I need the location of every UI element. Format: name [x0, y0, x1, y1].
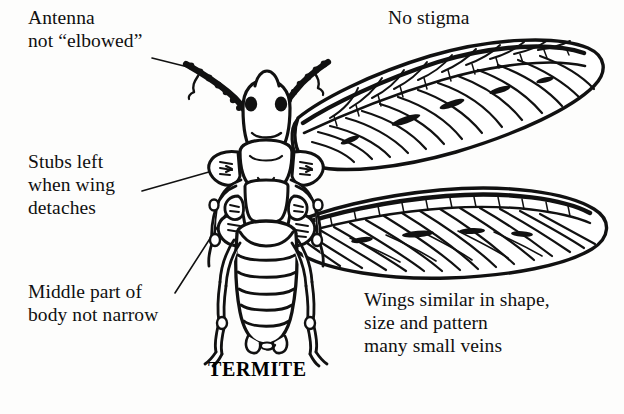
legs — [205, 180, 327, 366]
leg-bases — [225, 196, 307, 220]
label-antenna-not-elbowed: Antenna not “elbowed” — [28, 6, 142, 52]
head — [243, 71, 290, 158]
leader-lines — [142, 58, 230, 293]
hindwing — [287, 188, 607, 278]
eye-right — [275, 96, 287, 111]
antenna-leader-line — [152, 58, 188, 67]
termite-diagram-figure: Antenna not “elbowed” Stubs left when wi… — [0, 0, 624, 414]
figure-caption-termite: TERMITE — [208, 358, 307, 381]
antenna-left — [186, 63, 259, 150]
label-wings-similar-in-shape: Wings similar in shape, size and pattern… — [364, 288, 550, 357]
label-no-stigma: No stigma — [388, 6, 470, 29]
antenna-right — [272, 61, 328, 150]
leg-joints — [210, 200, 323, 330]
abdomen — [236, 221, 297, 353]
antennae — [186, 61, 328, 150]
label-middle-part-of-body-not-narrow: Middle part of body not narrow — [28, 280, 158, 326]
label-stubs-left-when-wing-detaches: Stubs left when wing detaches — [28, 150, 115, 219]
wing-stubs — [209, 151, 324, 185]
wing-stub-left — [209, 151, 240, 185]
eye-left — [245, 96, 257, 111]
thorax — [218, 180, 315, 246]
forewing — [292, 40, 603, 170]
stubs-leader-line — [142, 166, 230, 191]
prothorax — [240, 140, 292, 191]
wing-stub-right — [292, 151, 323, 185]
middle-leader-line — [175, 209, 229, 293]
